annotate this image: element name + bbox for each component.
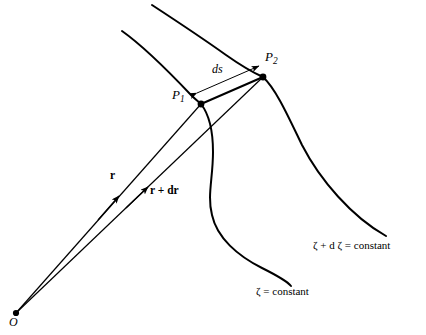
zeta-constant-label: ζ = constant xyxy=(256,286,309,297)
diagram-canvas: P1 P2 ds r r + dr O ζ = constant ζ + d ζ… xyxy=(0,0,426,335)
zeta-plus-dzeta-constant-label: ζ + d ζ = constant xyxy=(313,240,390,251)
point-label-p1-text: P xyxy=(172,87,180,102)
point-label-p2-text: P xyxy=(265,49,273,64)
vector-r-plus-dr-label: r + dr xyxy=(150,185,179,197)
arc-length-label: ds xyxy=(212,63,223,75)
point-label-p1: P1 xyxy=(172,88,185,104)
diagram-vector-layer xyxy=(0,0,426,335)
point-marker-p1 xyxy=(198,101,205,108)
point-label-p2-subscript: 2 xyxy=(273,56,278,66)
vector-r-arrowhead xyxy=(98,196,119,220)
point-marker-p2 xyxy=(260,74,267,81)
point-label-p1-subscript: 1 xyxy=(180,94,185,104)
origin-label: O xyxy=(9,316,18,328)
vector-r-label: r xyxy=(110,170,115,182)
point-label-p2: P2 xyxy=(265,50,278,66)
chord-p1-p2 xyxy=(201,77,263,104)
vector-r-plus-dr-arrowhead xyxy=(126,187,148,208)
zeta-constant-curve xyxy=(122,31,291,286)
